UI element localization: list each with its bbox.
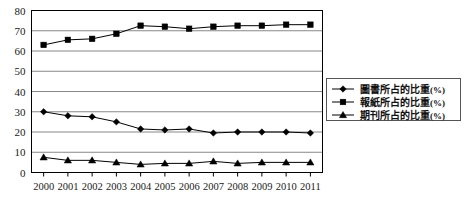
data-point-square xyxy=(65,37,71,43)
x-axis-tick-label: 2002 xyxy=(82,181,103,192)
x-axis-tick-label: 2011 xyxy=(300,181,321,192)
data-point-square xyxy=(235,23,241,29)
x-axis-tick-label: 2010 xyxy=(276,181,297,192)
data-point-square xyxy=(89,36,95,42)
data-point-square xyxy=(138,23,144,29)
data-point-square xyxy=(283,22,289,28)
y-axis-tick-label: 70 xyxy=(15,25,27,37)
x-axis-tick-label: 2008 xyxy=(227,181,248,192)
data-point-square xyxy=(211,24,217,30)
data-point-square xyxy=(186,26,192,32)
y-axis-ticklabels: 01020304050607080 xyxy=(15,5,27,179)
legend-item-label: 報紙所占的比重(%) xyxy=(360,96,445,108)
y-axis-tick-label: 0 xyxy=(20,167,26,179)
legend-item-label: 圖書所占的比重(%) xyxy=(360,83,445,95)
legend-item-label: 期刊所占的比重(%) xyxy=(360,109,445,121)
x-axis-tick-label: 2005 xyxy=(154,181,175,192)
chart-legend[interactable]: 圖書所占的比重(%)報紙所占的比重(%)期刊所占的比重(%) xyxy=(327,79,461,122)
data-point-square xyxy=(308,22,314,28)
data-point-square xyxy=(340,99,346,105)
x-axis-tick-label: 2001 xyxy=(57,181,78,192)
data-point-square xyxy=(41,42,47,48)
y-axis-tick-label: 80 xyxy=(15,5,27,17)
y-axis-tick-label: 40 xyxy=(15,86,27,98)
y-axis-tick-label: 60 xyxy=(15,45,27,57)
x-axis-tick-label: 2009 xyxy=(251,181,272,192)
data-point-square xyxy=(162,24,168,30)
line-chart: 01020304050607080 2000200120022003200420… xyxy=(0,0,464,204)
y-axis-tick-label: 50 xyxy=(15,65,27,77)
x-axis-tick-label: 2006 xyxy=(179,181,200,192)
x-axis-tick-label: 2000 xyxy=(33,181,54,192)
chart-canvas: 01020304050607080 2000200120022003200420… xyxy=(0,0,464,204)
data-point-square xyxy=(259,23,265,29)
data-point-square xyxy=(114,31,120,37)
y-axis-tick-label: 10 xyxy=(15,146,27,158)
y-axis-tick-label: 30 xyxy=(15,106,27,118)
x-axis-tick-label: 2004 xyxy=(130,181,152,192)
x-axis-tick-label: 2007 xyxy=(203,181,224,192)
y-axis-tick-label: 20 xyxy=(15,126,27,138)
x-axis-tick-label: 2003 xyxy=(106,181,127,192)
